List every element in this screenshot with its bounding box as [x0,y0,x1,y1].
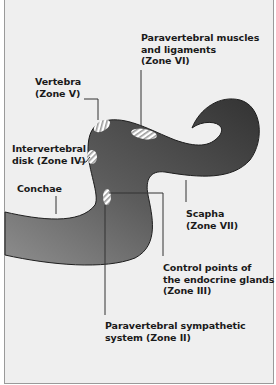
label-zone-iii: Control points of the endocrine glands (… [163,262,274,297]
label-zone-vii: Scapha (Zone VII) [186,208,238,231]
label-zone-v: Vertebra (Zone V) [35,76,81,99]
zone-iii-ii-hatch [103,189,111,205]
antihelix-band-shape [5,99,259,265]
zone-v-leader [84,99,98,120]
label-zone-iv: Intervertebral disk (Zone IV) [12,143,86,166]
label-zone-vi: Paravertebral muscles and ligaments (Zon… [141,32,259,67]
zone-iv-hatch [87,150,97,164]
label-zone-ii: Paravertebral sympathetic system (Zone I… [105,320,246,343]
label-conchae: Conchae [17,183,62,195]
